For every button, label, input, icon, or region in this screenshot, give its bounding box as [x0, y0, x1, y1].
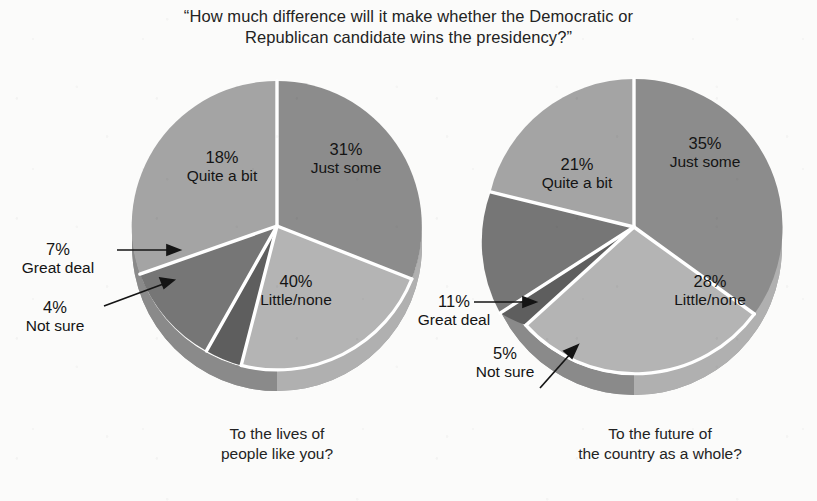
right-chart-caption-line-1: To the future of [540, 424, 780, 444]
right-label-just-some: 35% Just some [645, 134, 765, 171]
right-label-quite-a-bit-pct: 21% [512, 155, 642, 174]
right-label-just-some-name: Just some [645, 153, 765, 172]
right-label-just-some-pct: 35% [645, 134, 765, 153]
right-chart-caption-line-2: the country as a whole? [540, 444, 780, 464]
right-callout-not-sure: 5% Not sure [456, 344, 554, 381]
right-chart-caption: To the future of the country as a whole? [540, 424, 780, 463]
right-callout-great-deal-pct: 11% [398, 292, 510, 311]
right-label-little-none: 28% Little/none [640, 272, 780, 309]
figure-canvas: “How much difference will it make whethe… [0, 0, 817, 501]
right-callout-not-sure-pct: 5% [456, 344, 554, 363]
right-callout-great-deal: 11% Great deal [398, 292, 510, 329]
right-label-quite-a-bit-name: Quite a bit [512, 174, 642, 193]
right-label-quite-a-bit: 21% Quite a bit [512, 155, 642, 192]
right-label-little-none-name: Little/none [640, 291, 780, 310]
right-label-little-none-pct: 28% [640, 272, 780, 291]
right-callout-not-sure-name: Not sure [456, 363, 554, 382]
right-callout-great-deal-name: Great deal [398, 311, 510, 330]
